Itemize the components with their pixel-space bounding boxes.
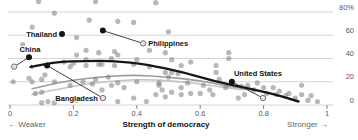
scatter-dot [271,85,276,90]
scatter-dot [83,63,88,68]
y-tick-label: 40 [346,49,354,58]
scatter-dot [42,72,47,77]
scatter-dot [115,80,120,85]
scatter-dot [226,56,231,61]
scatter-dot [144,99,149,104]
scatter-dot [68,64,73,69]
scatter-dot [299,83,304,88]
x-axis-title: Strength of democracy [60,120,272,129]
scatter-dot [299,92,304,97]
scatter-dot [226,50,231,55]
scatter-dot [115,19,120,24]
black-trend-arrowhead [29,64,33,68]
scatter-dot [87,18,92,23]
scatter-dot [99,87,104,92]
scatter-dot [134,79,139,84]
scatter-dot [80,79,85,84]
scatter-dot [115,52,120,57]
scatter-dot [207,87,212,92]
scatter-dot [153,0,158,5]
scatter-dot [134,57,139,62]
scatter-dot [309,93,314,98]
x-tick-label: 0 [8,109,12,118]
scatter-dot [115,99,120,104]
scatter-dot [109,83,114,88]
scatter-dot [169,57,174,62]
scatter-dot [179,85,184,90]
scatter-dot [242,92,247,97]
scatter-dot [201,83,206,88]
x-tick-label: 0.4 [132,109,142,118]
country-label: Bangladesh [55,94,98,103]
x-tick-label: 1 [325,109,329,118]
highlight-dot [229,79,235,85]
scatter-dot [93,0,98,4]
country-label: Thailand [26,30,57,39]
scatter-dot [11,79,16,84]
scatter-dot [213,70,218,75]
x-tick-label: 0.6 [195,109,205,118]
scatter-dot [33,91,38,96]
country-label: United States [234,69,282,78]
scatter-dot [106,75,111,80]
scatter-dot [68,83,73,88]
y-tick-label: 80% [339,3,354,12]
scatter-dot [305,98,310,103]
ring-dot [11,64,16,69]
highlight-dot [44,62,50,68]
y-tick-label: 60 [346,26,354,35]
ring-dot [260,95,265,100]
democracy-scatter-chart: 020406080%00.20.40.60.81ChinaThailandPhi… [0,0,358,140]
x-tick-label: 0.2 [68,109,78,118]
scatter-dot [93,77,98,82]
scatter-dot [39,77,44,82]
scatter-dot [198,91,203,96]
country-label: Philippines [148,39,188,48]
scatter-dot [169,90,174,95]
scatter-dot [179,63,184,68]
x-tick-label: 0.8 [258,109,268,118]
scatter-dot [179,92,184,97]
scatter-dot [52,79,57,84]
highlight-dot [100,28,106,34]
ring-dot [100,95,105,100]
scatter-dot [163,94,168,99]
scatter-dot [147,48,152,53]
scatter-dot [188,59,193,64]
scatter-dot [223,85,228,90]
scatter-dot [39,100,44,105]
scatter-dot [45,99,50,104]
scatter-dot [210,92,215,97]
scatter-dot [74,52,79,57]
scatter-dot [99,62,104,67]
x-axis-weaker-hint: ← Weaker [8,120,46,129]
scatter-dot [286,91,291,96]
change-arrow-philippines [103,31,143,44]
scatter-dot [277,88,282,93]
highlight-dot [26,54,32,60]
scatter-dot [188,91,193,96]
scatter-dot [52,11,57,16]
y-tick-label: 20 [346,72,354,81]
scatter-dot [163,70,168,75]
scatter-dot [153,92,158,97]
scatter-dot [156,83,161,88]
scatter-dot [261,85,266,90]
scatter-dot [112,63,117,68]
scatter-dot [166,29,171,34]
scatter-dot [39,90,44,95]
scatter-dot [315,99,320,104]
scatter-dot [36,0,41,4]
ring-dot [140,41,145,46]
chart-plot: 020406080%00.20.40.60.81ChinaThailandPhi… [0,0,358,140]
scatter-dot [160,87,165,92]
scatter-dot [90,81,95,86]
scatter-dot [96,50,101,55]
y-tick-label: 0 [350,96,354,105]
scatter-dot [122,85,127,90]
scatter-dot [236,95,241,100]
scatter-dot [255,80,260,85]
scatter-dot [30,79,35,84]
scatter-dot [213,63,218,68]
x-axis-stronger-hint: Stronger → [287,120,328,129]
